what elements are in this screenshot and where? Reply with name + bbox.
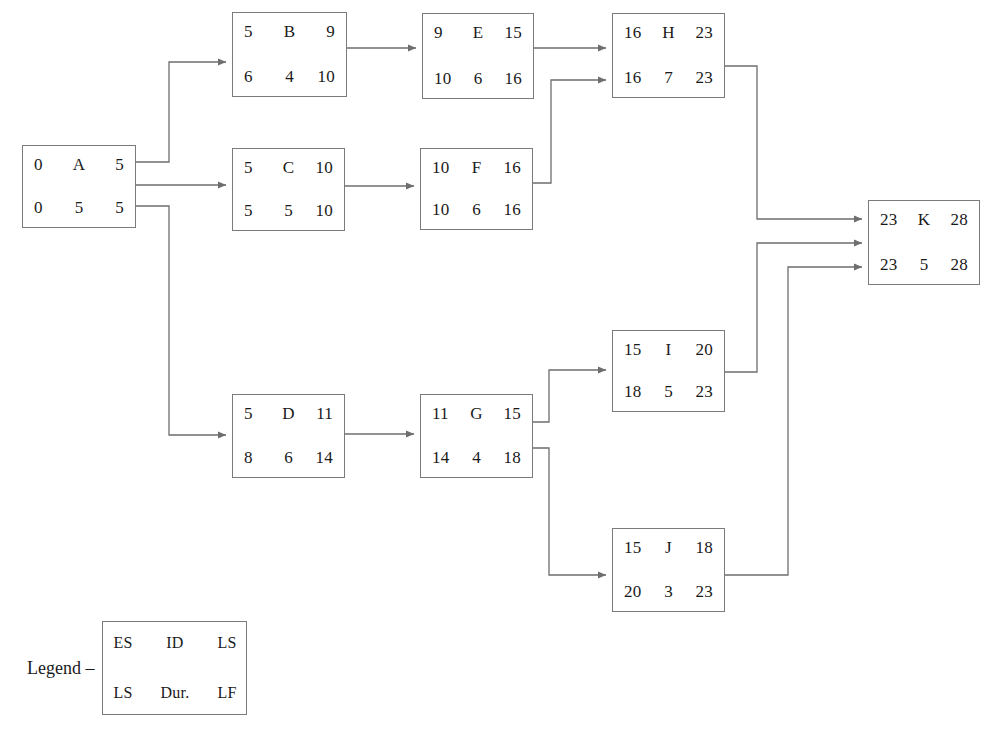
edge-g-j xyxy=(533,448,606,575)
node-h-dur: 7 xyxy=(658,68,679,88)
node-i-top-row: 15 I 20 xyxy=(613,340,724,360)
node-k-ls-top: 28 xyxy=(947,210,968,230)
node-b-lf: 10 xyxy=(314,67,335,87)
node-d-ls: 8 xyxy=(244,448,265,468)
node-b-dur: 4 xyxy=(279,67,300,87)
node-e-id: E xyxy=(468,23,489,43)
legend-ls-label: LS xyxy=(215,633,236,653)
node-k[interactable]: 23 K 28 23 5 28 xyxy=(868,200,980,285)
legend-lf-label: LF xyxy=(215,683,236,703)
node-h[interactable]: 16 H 23 16 7 23 xyxy=(612,13,725,98)
legend-es-label: ES xyxy=(113,633,134,653)
node-i[interactable]: 15 I 20 18 5 23 xyxy=(612,330,725,412)
node-j[interactable]: 15 J 18 20 3 23 xyxy=(612,528,725,612)
node-i-ls: 18 xyxy=(624,382,645,402)
edge-f-h xyxy=(533,80,606,183)
node-d[interactable]: 5 D 11 8 6 14 xyxy=(232,394,345,478)
edge-g-i xyxy=(533,370,606,422)
node-f-ls: 10 xyxy=(432,200,453,220)
node-i-lf: 23 xyxy=(692,382,713,402)
legend-ls2-label: LS xyxy=(113,683,134,703)
node-a-top-row: 0 A 5 xyxy=(23,155,135,175)
node-f[interactable]: 10 F 16 10 6 16 xyxy=(420,148,533,230)
node-d-ls-top: 11 xyxy=(312,404,333,424)
node-a-dur: 5 xyxy=(69,198,90,218)
node-b-bottom-row: 6 4 10 xyxy=(233,67,346,87)
node-k-bottom-row: 23 5 28 xyxy=(869,255,979,275)
node-k-es: 23 xyxy=(880,210,901,230)
node-c-top-row: 5 C 10 xyxy=(233,158,344,178)
node-j-es: 15 xyxy=(624,538,645,558)
node-g-lf: 18 xyxy=(500,448,521,468)
node-i-bottom-row: 18 5 23 xyxy=(613,382,724,402)
legend-bottom-row: LS Dur. LF xyxy=(103,683,246,703)
node-e-es: 9 xyxy=(434,23,455,43)
node-a[interactable]: 0 A 5 0 5 5 xyxy=(22,145,136,228)
edge-h-k xyxy=(725,66,862,219)
node-e-ls: 10 xyxy=(434,69,455,89)
edge-a-d xyxy=(136,206,226,435)
node-a-ls-top: 5 xyxy=(103,155,124,175)
node-d-es: 5 xyxy=(244,404,265,424)
node-a-ls: 0 xyxy=(34,198,55,218)
node-j-id: J xyxy=(658,538,679,558)
node-i-es: 15 xyxy=(624,340,645,360)
edge-a-b xyxy=(136,62,226,162)
node-i-dur: 5 xyxy=(658,382,679,402)
edge-j-k xyxy=(725,267,862,575)
node-h-es: 16 xyxy=(624,23,645,43)
node-d-lf: 14 xyxy=(312,448,333,468)
node-a-lf: 5 xyxy=(103,198,124,218)
node-f-dur: 6 xyxy=(466,200,487,220)
node-j-ls: 20 xyxy=(624,582,645,602)
node-e-lf: 16 xyxy=(501,69,522,89)
node-g-ls: 14 xyxy=(432,448,453,468)
node-k-ls: 23 xyxy=(880,255,901,275)
node-f-ls-top: 16 xyxy=(500,158,521,178)
network-diagram: 0 A 5 0 5 5 5 B 9 6 4 10 5 C 10 5 5 xyxy=(0,0,987,735)
node-f-top-row: 10 F 16 xyxy=(421,158,532,178)
node-b-es: 5 xyxy=(244,22,265,42)
node-f-lf: 16 xyxy=(500,200,521,220)
node-g-dur: 4 xyxy=(466,448,487,468)
node-g-top-row: 11 G 15 xyxy=(421,404,532,424)
legend-top-row: ES ID LS xyxy=(103,633,246,653)
legend-dur-label: Dur. xyxy=(161,683,190,703)
node-c-ls: 5 xyxy=(244,201,265,221)
edge-i-k xyxy=(725,243,862,372)
node-j-top-row: 15 J 18 xyxy=(613,538,724,558)
legend-label: Legend – xyxy=(27,658,102,678)
legend-box: ES ID LS LS Dur. LF xyxy=(102,621,247,715)
node-e-ls-top: 15 xyxy=(501,23,522,43)
node-c-id: C xyxy=(278,158,299,178)
node-k-lf: 28 xyxy=(947,255,968,275)
node-c[interactable]: 5 C 10 5 5 10 xyxy=(232,148,345,231)
node-h-ls: 16 xyxy=(624,68,645,88)
node-e[interactable]: 9 E 15 10 6 16 xyxy=(422,13,534,99)
node-e-dur: 6 xyxy=(468,69,489,89)
node-d-dur: 6 xyxy=(278,448,299,468)
node-c-es: 5 xyxy=(244,158,265,178)
node-e-top-row: 9 E 15 xyxy=(423,23,533,43)
node-g[interactable]: 11 G 15 14 4 18 xyxy=(420,394,533,478)
legend-id-label: ID xyxy=(164,633,185,653)
node-g-bottom-row: 14 4 18 xyxy=(421,448,532,468)
node-b-ls: 6 xyxy=(244,67,265,87)
node-c-lf: 10 xyxy=(312,201,333,221)
node-a-es: 0 xyxy=(34,155,55,175)
node-a-id: A xyxy=(69,155,90,175)
node-g-ls-top: 15 xyxy=(500,404,521,424)
node-j-bottom-row: 20 3 23 xyxy=(613,582,724,602)
node-j-ls-top: 18 xyxy=(692,538,713,558)
node-a-bottom-row: 0 5 5 xyxy=(23,198,135,218)
node-b[interactable]: 5 B 9 6 4 10 xyxy=(232,12,347,97)
node-b-ls-top: 9 xyxy=(314,22,335,42)
node-h-id: H xyxy=(658,23,679,43)
node-d-top-row: 5 D 11 xyxy=(233,404,344,424)
node-k-id: K xyxy=(914,210,935,230)
node-i-id: I xyxy=(658,340,679,360)
node-c-bottom-row: 5 5 10 xyxy=(233,201,344,221)
node-g-es: 11 xyxy=(432,404,453,424)
node-i-ls-top: 20 xyxy=(692,340,713,360)
node-g-id: G xyxy=(466,404,487,424)
